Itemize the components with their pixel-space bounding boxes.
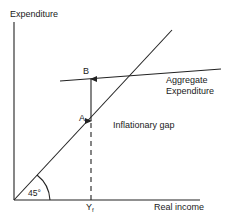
aggregate-expenditure-label-line2: Expenditure [166,86,214,96]
x-axis-label: Real income [154,202,204,212]
full-employment-income-label: Yf [86,202,94,213]
y-axis-label: Expenditure [10,9,58,19]
point-a-label: A [79,113,85,123]
keynesian-cross-diagram: Expenditure Real income 45° Aggregate Ex… [0,0,235,219]
inflationary-gap-label: Inflationary gap [113,120,175,130]
aggregate-expenditure-label-line1: Aggregate [166,75,208,85]
point-b-label: B [83,66,89,76]
forty-five-degree-line [14,30,172,200]
angle-label: 45° [28,188,41,198]
